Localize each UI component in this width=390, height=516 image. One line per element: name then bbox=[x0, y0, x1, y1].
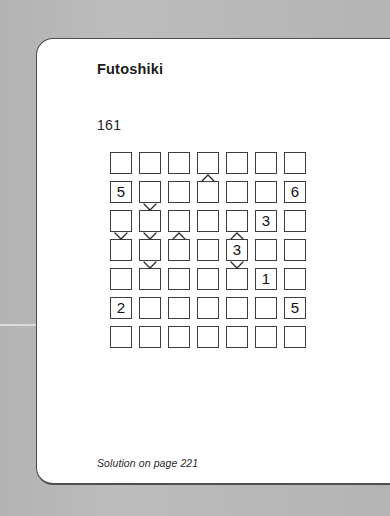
horizontal-inequality-sign bbox=[161, 326, 170, 348]
grid-cell-empty[interactable] bbox=[110, 326, 132, 348]
vertical-inequality-sign bbox=[110, 232, 132, 240]
grid-cell-given[interactable]: 3 bbox=[255, 210, 277, 232]
page-title: Futoshiki bbox=[97, 61, 163, 77]
grid-cell-empty[interactable] bbox=[226, 181, 248, 203]
grid-cell-empty[interactable] bbox=[255, 326, 277, 348]
grid-cell-empty[interactable] bbox=[168, 297, 190, 319]
grid-cell-empty[interactable] bbox=[255, 239, 277, 261]
grid-cell-empty[interactable] bbox=[168, 210, 190, 232]
vertical-inequality-sign bbox=[226, 261, 248, 269]
grid-cell-empty[interactable] bbox=[110, 268, 132, 290]
grid-cell-empty[interactable] bbox=[168, 181, 190, 203]
vertical-inequality-sign bbox=[168, 232, 190, 240]
grid-cell-empty[interactable] bbox=[197, 297, 219, 319]
grid-cell-empty[interactable] bbox=[168, 239, 190, 261]
grid-cell-empty[interactable] bbox=[139, 326, 161, 348]
futoshiki-grid[interactable]: 5633125 bbox=[110, 152, 320, 362]
puzzle-number: 161 bbox=[97, 117, 121, 133]
grid-cell-empty[interactable] bbox=[110, 210, 132, 232]
grid-cell-empty[interactable] bbox=[197, 326, 219, 348]
grid-cell-empty[interactable] bbox=[226, 210, 248, 232]
vertical-inequality-sign bbox=[139, 261, 161, 269]
grid-cell-given[interactable]: 6 bbox=[284, 181, 306, 203]
grid-cell-empty[interactable] bbox=[139, 181, 161, 203]
grid-cell-empty[interactable] bbox=[197, 210, 219, 232]
vertical-inequality-sign bbox=[139, 232, 161, 240]
puzzle-page-card: Futoshiki 161 5633125 Solution on page 2… bbox=[36, 38, 390, 485]
grid-cell-empty[interactable] bbox=[168, 152, 190, 174]
grid-cell-empty[interactable] bbox=[110, 239, 132, 261]
grid-cell-empty[interactable] bbox=[226, 326, 248, 348]
vertical-inequality-sign bbox=[197, 174, 219, 182]
grid-cell-empty[interactable] bbox=[168, 268, 190, 290]
grid-cell-empty[interactable] bbox=[255, 152, 277, 174]
grid-cell-empty[interactable] bbox=[168, 326, 190, 348]
grid-cell-given[interactable]: 2 bbox=[110, 297, 132, 319]
vertical-inequality-sign bbox=[226, 232, 248, 240]
grid-cell-given[interactable]: 3 bbox=[226, 239, 248, 261]
grid-cell-empty[interactable] bbox=[284, 326, 306, 348]
grid-cell-empty[interactable] bbox=[197, 239, 219, 261]
grid-cell-empty[interactable] bbox=[197, 181, 219, 203]
grid-cell-empty[interactable] bbox=[255, 181, 277, 203]
grid-cell-given[interactable]: 5 bbox=[284, 297, 306, 319]
grid-cell-empty[interactable] bbox=[139, 152, 161, 174]
gutter-hairline bbox=[0, 324, 36, 326]
grid-cell-empty[interactable] bbox=[255, 297, 277, 319]
horizontal-inequality-sign bbox=[132, 239, 141, 261]
grid-cell-empty[interactable] bbox=[284, 239, 306, 261]
grid-cell-empty[interactable] bbox=[139, 239, 161, 261]
grid-cell-empty[interactable] bbox=[197, 268, 219, 290]
grid-cell-empty[interactable] bbox=[139, 210, 161, 232]
grid-cell-empty[interactable] bbox=[226, 152, 248, 174]
grid-cell-empty[interactable] bbox=[110, 152, 132, 174]
vertical-inequality-sign bbox=[139, 203, 161, 211]
solution-page-note: Solution on page 221 bbox=[97, 457, 198, 469]
grid-cell-empty[interactable] bbox=[284, 210, 306, 232]
grid-cell-empty[interactable] bbox=[284, 268, 306, 290]
horizontal-inequality-sign bbox=[161, 210, 170, 232]
horizontal-inequality-sign bbox=[132, 326, 141, 348]
grid-cell-empty[interactable] bbox=[139, 268, 161, 290]
grid-cell-given[interactable]: 1 bbox=[255, 268, 277, 290]
grid-cell-empty[interactable] bbox=[197, 152, 219, 174]
grid-cell-empty[interactable] bbox=[226, 297, 248, 319]
grid-cell-given[interactable]: 5 bbox=[110, 181, 132, 203]
grid-cell-empty[interactable] bbox=[226, 268, 248, 290]
grid-cell-empty[interactable] bbox=[284, 152, 306, 174]
grid-cell-empty[interactable] bbox=[139, 297, 161, 319]
